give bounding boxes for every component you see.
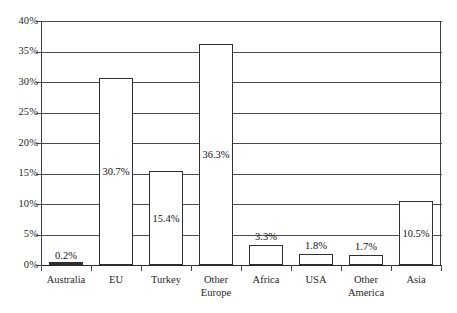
x-axis-separator-tick bbox=[341, 265, 342, 271]
y-axis-tick-label: 10% bbox=[18, 199, 38, 210]
x-axis-separator-tick bbox=[391, 265, 392, 271]
x-axis-separator-tick bbox=[241, 265, 242, 271]
y-axis-tick-label: 0% bbox=[24, 260, 38, 271]
y-axis-tick-label: 25% bbox=[18, 107, 38, 118]
x-axis-edge-tick bbox=[441, 265, 442, 271]
y-axis-tick-label: 20% bbox=[18, 138, 38, 149]
gridline-35 bbox=[42, 52, 442, 53]
y-axis-tick-label: 5% bbox=[24, 229, 38, 240]
bar-value-label: 15.4% bbox=[133, 213, 199, 224]
bar-value-label: 0.2% bbox=[33, 250, 99, 261]
x-axis-category-label-asia: Asia bbox=[384, 274, 448, 287]
y-axis-tick-label: 40% bbox=[18, 16, 38, 27]
bar-chart: 0%5%10%15%20%25%30%35%40% AustraliaEUTur… bbox=[0, 0, 457, 313]
gridline-40 bbox=[42, 21, 442, 22]
x-axis-separator-tick bbox=[91, 265, 92, 271]
x-axis-separator-tick bbox=[141, 265, 142, 271]
bar-value-label: 1.7% bbox=[333, 241, 399, 252]
x-axis-separator-tick bbox=[291, 265, 292, 271]
bar-value-label: 10.5% bbox=[383, 228, 449, 239]
bar-other-america bbox=[349, 255, 383, 265]
bar-value-label: 30.7% bbox=[83, 166, 149, 177]
bar-value-label: 36.3% bbox=[183, 149, 249, 160]
y-axis-tick-label: 15% bbox=[18, 168, 38, 179]
bar-usa bbox=[299, 254, 333, 265]
bar-australia bbox=[49, 262, 83, 265]
bar-africa bbox=[249, 245, 283, 265]
x-axis-edge-tick bbox=[41, 265, 42, 271]
y-axis-tick-label: 30% bbox=[18, 77, 38, 88]
gridline-0 bbox=[42, 265, 442, 266]
y-axis-tick-label: 35% bbox=[18, 46, 38, 57]
x-axis-separator-tick bbox=[191, 265, 192, 271]
